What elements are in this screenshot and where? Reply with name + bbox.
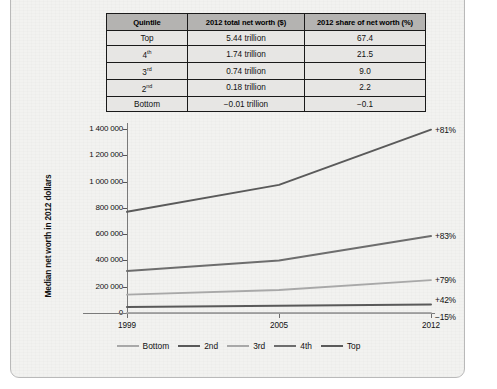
cell-share: 21.5 — [305, 46, 426, 63]
cell-share: 67.4 — [305, 31, 426, 46]
legend-swatch-4th-icon — [274, 345, 296, 347]
legend-swatch-3rd-icon — [227, 345, 249, 347]
table-row: Bottom−0.01 trillion−0.1 — [107, 96, 426, 111]
cell-networth: 5.44 trillion — [188, 31, 305, 46]
legend-swatch-bottom-icon — [117, 345, 139, 347]
annotation-2nd: +42% — [435, 295, 456, 305]
legend-item-3rd[interactable]: 3rd — [227, 341, 265, 351]
legend-item-2nd[interactable]: 2nd — [178, 341, 218, 351]
legend-swatch-top-icon — [321, 345, 343, 347]
cell-share: 2.2 — [305, 80, 426, 97]
cell-quintile: 4th — [107, 46, 188, 63]
legend-item-4th[interactable]: 4th — [274, 341, 312, 351]
col-header-quintile: Quintile — [107, 14, 188, 31]
col-header-share: 2012 share of net worth (%) — [305, 14, 426, 31]
cell-quintile: 3rd — [107, 63, 188, 80]
legend-item-top[interactable]: Top — [321, 341, 361, 351]
ordinal-suffix: rd — [147, 66, 152, 72]
annotation-top: +81% — [435, 125, 456, 135]
series-lines — [127, 129, 431, 313]
cell-share: 9.0 — [305, 63, 426, 80]
annotation-4th: +83% — [435, 231, 456, 241]
legend-swatch-2nd-icon — [178, 345, 200, 347]
table-row: 2nd0.18 trillion2.2 — [107, 80, 426, 97]
cell-quintile: 2nd — [107, 80, 188, 97]
legend-label: 2nd — [204, 341, 218, 351]
col-header-networth: 2012 total net worth ($) — [188, 14, 305, 31]
quintile-table-container: Quintile 2012 total net worth ($) 2012 s… — [106, 13, 410, 112]
cell-networth: −0.01 trillion — [188, 96, 305, 111]
table-body: Top5.44 trillion67.44th1.74 trillion21.5… — [107, 31, 426, 112]
y-tick-label: 600 000 — [95, 229, 123, 238]
series-line-2nd — [127, 304, 431, 306]
plot-area — [127, 129, 431, 313]
cell-networth: 0.74 trillion — [188, 63, 305, 80]
cell-networth: 0.18 trillion — [188, 80, 305, 97]
table-row: 4th1.74 trillion21.5 — [107, 46, 426, 63]
cell-share: −0.1 — [305, 96, 426, 111]
table-row: Top5.44 trillion67.4 — [107, 31, 426, 46]
x-tick-label: 2012 — [422, 321, 440, 330]
y-tick-label: 400 000 — [95, 255, 123, 264]
legend-label: Bottom — [143, 341, 170, 351]
x-tick-label: 1999 — [118, 321, 136, 330]
y-tick-label: 1 200 000 — [89, 150, 123, 159]
table-header-row: Quintile 2012 total net worth ($) 2012 s… — [107, 14, 426, 31]
annotation-3rd: +79% — [435, 275, 456, 285]
figure-card: Quintile 2012 total net worth ($) 2012 s… — [10, 0, 465, 378]
legend-label: 3rd — [253, 341, 265, 351]
y-tick-label: 1 000 000 — [89, 177, 123, 186]
line-chart: Median net worth in 2012 dollars 1 400 0… — [11, 113, 466, 379]
x-tick-label: 2005 — [270, 321, 288, 330]
annotation-bottom: −15% — [435, 312, 456, 322]
table-row: 3rd0.74 trillion9.0 — [107, 63, 426, 80]
y-tick-label: 800 000 — [95, 203, 123, 212]
series-line-4th — [127, 236, 431, 271]
chart-legend: Bottom2nd3rd4thTop — [11, 341, 466, 351]
ordinal-suffix: th — [147, 49, 152, 55]
series-line-3rd — [127, 280, 431, 294]
y-tick-label: 200 000 — [95, 282, 123, 291]
ordinal-suffix: nd — [146, 83, 152, 89]
legend-item-bottom[interactable]: Bottom — [117, 341, 170, 351]
cell-quintile: Bottom — [107, 96, 188, 111]
legend-label: 4th — [300, 341, 312, 351]
series-line-top — [127, 130, 431, 212]
y-axis-ticks: 1 400 0001 200 0001 000 000800 000600 00… — [11, 113, 123, 323]
legend-label: Top — [347, 341, 361, 351]
cell-networth: 1.74 trillion — [188, 46, 305, 63]
cell-quintile: Top — [107, 31, 188, 46]
quintile-table: Quintile 2012 total net worth ($) 2012 s… — [106, 13, 426, 112]
y-tick-label: 1 400 000 — [89, 124, 123, 133]
